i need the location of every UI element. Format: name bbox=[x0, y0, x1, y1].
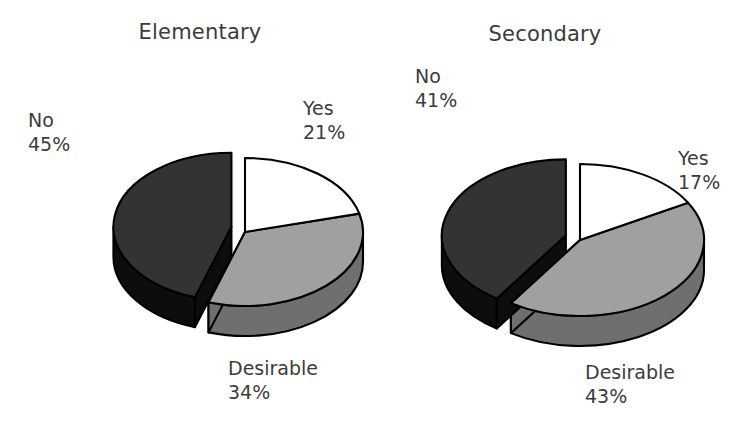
label-desirable-elementary-name: Desirable bbox=[228, 356, 318, 380]
label-desirable-elementary-pct: 34% bbox=[228, 380, 318, 404]
label-yes-elementary: Yes 21% bbox=[303, 96, 345, 144]
label-no-secondary: No 41% bbox=[415, 64, 457, 112]
label-desirable-secondary: Desirable 43% bbox=[585, 360, 675, 408]
label-yes-secondary: Yes 17% bbox=[678, 146, 720, 194]
label-desirable-elementary: Desirable 34% bbox=[228, 356, 318, 404]
chart-title-secondary: Secondary bbox=[345, 22, 742, 46]
label-yes-secondary-name: Yes bbox=[678, 146, 720, 170]
label-desirable-secondary-name: Desirable bbox=[585, 360, 675, 384]
label-no-secondary-pct: 41% bbox=[415, 88, 457, 112]
label-yes-elementary-pct: 21% bbox=[303, 120, 345, 144]
label-yes-secondary-pct: 17% bbox=[678, 170, 720, 194]
label-no-elementary-name: No bbox=[28, 108, 70, 132]
label-no-elementary: No 45% bbox=[28, 108, 70, 156]
label-desirable-secondary-pct: 43% bbox=[585, 384, 675, 408]
figure-canvas: Elementary Secondary No 45% Yes 21% Desi… bbox=[0, 0, 742, 434]
label-no-secondary-name: No bbox=[415, 64, 457, 88]
label-yes-elementary-name: Yes bbox=[303, 96, 345, 120]
chart-title-elementary: Elementary bbox=[0, 20, 400, 44]
label-no-elementary-pct: 45% bbox=[28, 132, 70, 156]
